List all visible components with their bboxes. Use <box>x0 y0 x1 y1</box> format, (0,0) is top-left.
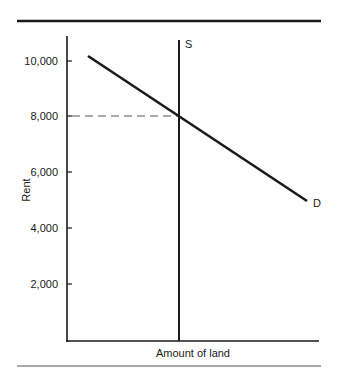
y-tick-label-8000: 8,000 <box>8 110 58 122</box>
supply-label: S <box>185 38 192 50</box>
demand-label: D <box>313 197 321 209</box>
y-tick-label-6000: 6,000 <box>8 166 58 178</box>
y-tick-label-10000: 10,000 <box>8 55 58 67</box>
demand-curve <box>88 56 307 201</box>
y-axis-title: Rent <box>20 170 32 210</box>
y-tick-label-4000: 4,000 <box>8 222 58 234</box>
x-axis-title: Amount of land <box>120 347 266 359</box>
y-tick-label-2000: 2,000 <box>8 278 58 290</box>
